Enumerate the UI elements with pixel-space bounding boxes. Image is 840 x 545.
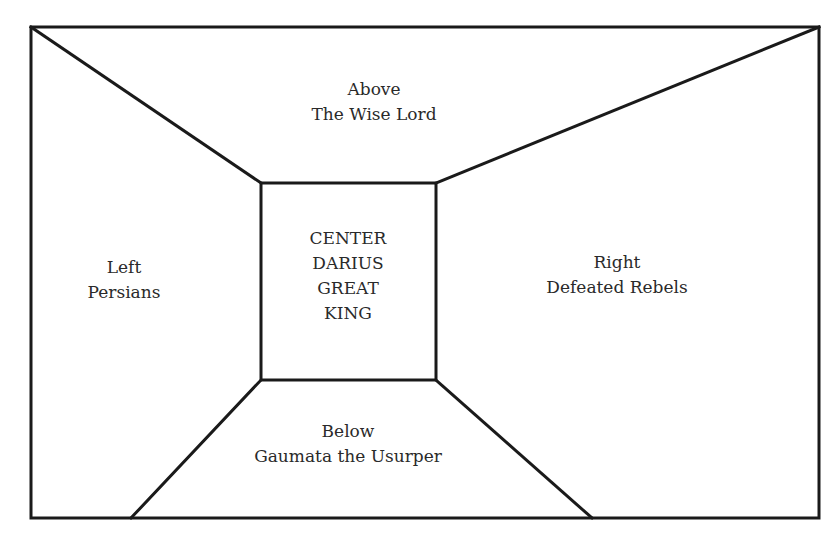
region-above-label: Above The Wise Lord [311,77,436,127]
region-center-label: CENTER DARIUS GREAT KING [310,226,387,326]
region-below-label: Below Gaumata the Usurper [254,419,442,469]
region-left-subtitle: Persians [88,280,161,305]
center-line-2: DARIUS [310,251,387,276]
lower-left-diagonal [131,380,261,518]
region-right-label: Right Defeated Rebels [546,250,687,300]
region-right-title: Right [546,250,687,275]
center-line-4: KING [310,301,387,326]
upper-left-diagonal [31,27,261,183]
center-line-3: GREAT [310,276,387,301]
region-left-title: Left [88,255,161,280]
region-right-subtitle: Defeated Rebels [546,275,687,300]
region-left-label: Left Persians [88,255,161,305]
lower-right-diagonal [436,380,592,518]
region-above-title: Above [311,77,436,102]
upper-right-diagonal [436,27,819,183]
center-line-1: CENTER [310,226,387,251]
region-below-subtitle: Gaumata the Usurper [254,444,442,469]
region-below-title: Below [254,419,442,444]
region-above-subtitle: The Wise Lord [311,102,436,127]
